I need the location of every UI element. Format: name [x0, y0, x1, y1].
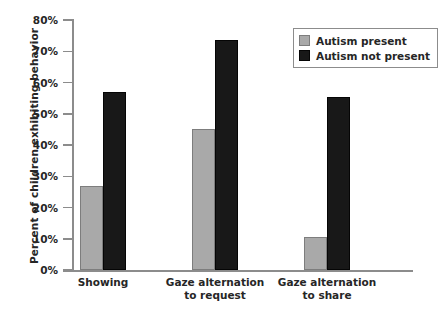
y-axis-tick: [63, 19, 72, 21]
y-axis-tick: [63, 51, 72, 53]
y-axis-tick: [63, 269, 72, 271]
x-axis-line: [63, 270, 413, 272]
y-axis-tick: [63, 176, 72, 178]
y-axis-tick-label: 20%: [0, 202, 58, 214]
y-axis-tick: [63, 82, 72, 84]
y-axis-tick-label: 0%: [0, 264, 58, 276]
legend-item[interactable]: Autism present: [299, 33, 430, 48]
y-axis-tick: [63, 144, 72, 146]
y-axis-tick: [63, 238, 72, 240]
legend-item[interactable]: Autism not present: [299, 48, 430, 63]
x-axis-category-line: Gaze alternation: [150, 276, 280, 289]
y-axis-tick-label: 30%: [0, 170, 58, 182]
y-axis-tick-label: 10%: [0, 233, 58, 245]
x-axis-category-line: Gaze alternation: [262, 276, 392, 289]
bar-0-0: [80, 186, 103, 270]
y-axis-tick-label: 80%: [0, 14, 58, 26]
bar-1-1: [215, 40, 238, 270]
y-axis-tick: [63, 207, 72, 209]
x-axis-category-label: Gaze alternationto request: [150, 276, 280, 302]
bar-0-2: [304, 237, 327, 270]
x-axis-category-label: Showing: [38, 276, 168, 289]
legend-swatch-icon: [299, 35, 310, 46]
y-axis-tick: [63, 113, 72, 115]
legend-label: Autism not present: [316, 50, 430, 62]
x-axis-category-line: Showing: [38, 276, 168, 289]
x-axis-category-line: to request: [150, 289, 280, 302]
x-axis-category-label: Gaze alternationto share: [262, 276, 392, 302]
y-axis-tick-label: 50%: [0, 108, 58, 120]
legend-swatch-icon: [299, 50, 310, 61]
y-axis-tick-label: 60%: [0, 77, 58, 89]
x-axis-category-line: to share: [262, 289, 392, 302]
chart-legend: Autism presentAutism not present: [293, 28, 438, 68]
y-axis-tick-label: 70%: [0, 45, 58, 57]
bar-1-0: [103, 92, 126, 270]
bar-0-1: [192, 129, 215, 270]
legend-label: Autism present: [316, 35, 407, 47]
y-axis-tick-label: 40%: [0, 139, 58, 151]
bar-1-2: [327, 97, 350, 270]
